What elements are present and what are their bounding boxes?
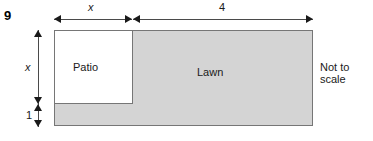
arrowhead-left-icon xyxy=(133,15,140,23)
note-line-1: Not to xyxy=(320,61,372,73)
note-line-2: scale xyxy=(320,73,372,85)
diagram-canvas: 9 Patio Lawn x 4 x 1 Not to scale xyxy=(0,0,373,141)
dimension-label-left-1: 1 xyxy=(26,110,32,121)
dimension-label-top-4: 4 xyxy=(219,2,225,13)
arrowhead-right-icon xyxy=(125,15,132,23)
dimension-shaft xyxy=(133,19,313,20)
lawn-label: Lawn xyxy=(197,67,223,78)
patio-label: Patio xyxy=(73,62,98,73)
dimension-label-left-x: x xyxy=(25,62,31,73)
arrowhead-left-icon xyxy=(54,15,61,23)
dimension-line-top-x xyxy=(54,14,132,25)
dimension-label-top-x: x xyxy=(88,2,94,13)
dimension-shaft xyxy=(54,19,132,20)
arrowhead-up-icon xyxy=(34,104,42,111)
arrowhead-down-icon xyxy=(34,97,42,104)
dimension-shaft xyxy=(38,30,39,104)
dimension-line-left-x xyxy=(33,30,44,104)
not-to-scale-note: Not to scale xyxy=(320,61,372,85)
question-number: 9 xyxy=(4,9,11,22)
arrowhead-up-icon xyxy=(34,30,42,37)
dimension-line-left-1 xyxy=(33,104,44,127)
arrowhead-down-icon xyxy=(34,120,42,127)
arrowhead-right-icon xyxy=(306,15,313,23)
dimension-line-top-4 xyxy=(133,14,313,25)
